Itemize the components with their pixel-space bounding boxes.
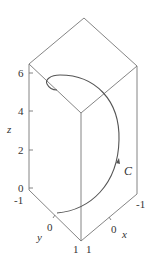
x-tick-neg1: -1 [136, 198, 145, 210]
y-axis-label: y [36, 231, 42, 243]
box-top-face [29, 18, 137, 113]
3d-curve-figure: 6 4 2 0 z -1 0 1 y 1 0 -1 x C [0, 0, 155, 266]
x-axis: 1 0 -1 x [86, 198, 145, 255]
x-tick-1: 1 [86, 243, 92, 255]
x-axis-label: x [121, 228, 127, 240]
z-tick-4: 4 [18, 105, 24, 117]
y-axis: -1 0 1 y [14, 194, 79, 255]
z-tick-2: 2 [18, 144, 24, 156]
curve-c: C [47, 75, 133, 213]
y-tick-neg1: -1 [14, 194, 23, 206]
x-tick-0: 0 [111, 223, 117, 235]
curve-label: C [124, 164, 133, 178]
y-tick-1: 1 [73, 243, 79, 255]
bounding-box [29, 18, 137, 241]
z-tick-6: 6 [18, 67, 24, 79]
z-tick-0: 0 [18, 182, 24, 194]
y-tick-0: 0 [47, 221, 53, 233]
z-axis-label: z [6, 123, 12, 135]
curve-path [47, 75, 119, 213]
